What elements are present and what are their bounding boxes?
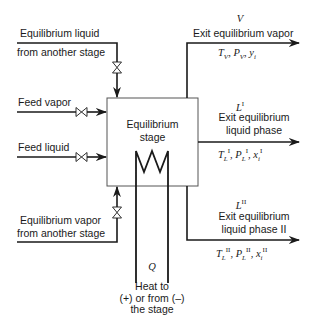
valve-icon[interactable] — [76, 153, 87, 162]
vapor-outlet-label: Exit equilibrium vapor — [193, 27, 293, 40]
liquid-1-outlet-label: Exit equilibrium liquid phase — [196, 111, 312, 137]
valve-icon[interactable] — [113, 62, 122, 73]
liquid-2-outlet-label: Exit equilibrium liquid phase II — [196, 210, 312, 236]
heat-label-line1: Heat to — [112, 281, 192, 293]
stage-label: Equilibrium stage — [107, 118, 198, 144]
vapor-properties: TV, PV, yi — [218, 46, 256, 64]
liquid-inlet-label-2: from another stage — [17, 46, 105, 59]
feed-liquid-label: Feed liquid — [18, 141, 69, 154]
heat-label: Heat to (+) or from (–) the stage — [112, 281, 192, 316]
stage-label-line1: Equilibrium — [107, 118, 198, 131]
liquid-2-properties: TLII, PLII, xiII — [216, 244, 267, 265]
liquid-1-properties: TLI, PLI, xiI — [218, 145, 262, 166]
vapor-inlet-label-2: from another stage — [17, 227, 105, 240]
vapor-symbol: V — [230, 12, 250, 25]
feed-vapor-label: Feed vapor — [18, 96, 71, 109]
liquid-1-label-line2: liquid phase — [196, 124, 312, 137]
vapor-inlet-label-1: Equilibrium vapor — [20, 214, 101, 227]
stage-label-line2: stage — [107, 131, 198, 144]
valve-icon[interactable] — [113, 207, 122, 218]
valve-icon[interactable] — [76, 108, 87, 117]
liquid-1-label-line1: Exit equilibrium — [196, 111, 312, 124]
liquid-2-label-line2: liquid phase II — [196, 223, 312, 236]
heat-label-line3: the stage — [112, 304, 192, 316]
heat-symbol: Q — [142, 260, 162, 273]
liquid-inlet-label-1: Equilibrium liquid — [20, 27, 99, 40]
liquid-2-label-line1: Exit equilibrium — [196, 210, 312, 223]
